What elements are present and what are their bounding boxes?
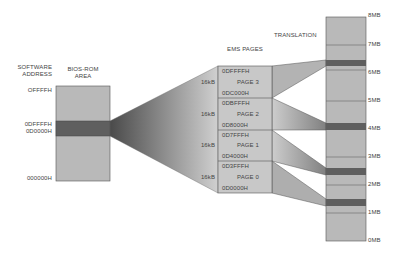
page-name: PAGE 0: [218, 174, 278, 181]
page-name: PAGE 1: [218, 142, 278, 149]
heading-line-1: SOFTWARE: [4, 64, 52, 71]
page-top-address: 0D3FFFH: [222, 163, 249, 170]
page-size: 16kB: [190, 142, 215, 149]
scale-label: 5MB: [368, 97, 381, 104]
page-top-address: 0DFFFFH: [222, 68, 249, 75]
mapped-band-page-3: [326, 60, 366, 66]
software-address-heading: SOFTWARE ADDRESS: [4, 64, 52, 78]
heading-line-1: BIOS-ROM: [56, 66, 110, 73]
scale-label: 8MB: [368, 12, 381, 19]
page-name: PAGE 2: [218, 111, 278, 118]
address-label: 0D0000H: [4, 128, 52, 135]
mapping-page-2: [272, 98, 326, 130]
page-bottom-address: 0D8000H: [222, 122, 248, 129]
page-top-address: 0DBFFFH: [222, 100, 250, 107]
bios-rom-block: [56, 86, 110, 181]
page-bottom-address: 0DC000H: [222, 90, 249, 97]
translation-memory-bar: [326, 17, 366, 241]
scale-label: 3MB: [368, 153, 381, 160]
mapped-band-page-2: [326, 123, 366, 130]
scale-label: 4MB: [368, 125, 381, 132]
scale-label: 7MB: [368, 41, 381, 48]
ems-window-band: [56, 121, 110, 136]
ems-pages-heading: EMS PAGES: [212, 46, 278, 53]
mapping-page-3: [272, 60, 326, 98]
heading-line-2: AREA: [56, 73, 110, 80]
scale-label: 2MB: [368, 181, 381, 188]
address-label: 0DFFFFH: [4, 121, 52, 128]
page-name: PAGE 3: [218, 79, 278, 86]
page-mappings: [272, 60, 326, 206]
page-size: 16kB: [190, 79, 215, 86]
scale-label: 6MB: [368, 69, 381, 76]
mapped-band-page-0: [326, 199, 366, 206]
ems-diagram: [0, 0, 402, 256]
scale-label: 0MB: [368, 237, 381, 244]
address-label: 000000H: [4, 175, 52, 182]
page-bottom-address: 0D0000H: [222, 185, 248, 192]
scale-label: 1MB: [368, 209, 381, 216]
page-top-address: 0D7FFFH: [222, 132, 249, 139]
page-bottom-address: 0D4000H: [222, 153, 248, 160]
bios-rom-heading: BIOS-ROM AREA: [56, 66, 110, 80]
heading-line-2: ADDRESS: [4, 71, 52, 78]
mapped-band-page-1: [326, 168, 366, 175]
page-size: 16kB: [190, 111, 215, 118]
address-label: OFFFFH: [4, 87, 52, 94]
translation-heading: TRANSLATION: [274, 32, 317, 39]
page-size: 16kB: [190, 174, 215, 181]
